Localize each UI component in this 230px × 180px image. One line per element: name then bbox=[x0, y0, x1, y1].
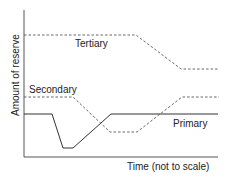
y-axis-label: Amount of reserve bbox=[10, 34, 21, 116]
tertiary-label: Tertiary bbox=[75, 38, 108, 49]
x-axis-label: Time (not to scale) bbox=[127, 161, 209, 172]
secondary-label: Secondary bbox=[29, 84, 77, 95]
primary-label: Primary bbox=[173, 118, 207, 129]
tertiary-line bbox=[24, 35, 219, 69]
reserve-diagram: Tertiary Secondary Primary Time (not to … bbox=[0, 0, 230, 180]
